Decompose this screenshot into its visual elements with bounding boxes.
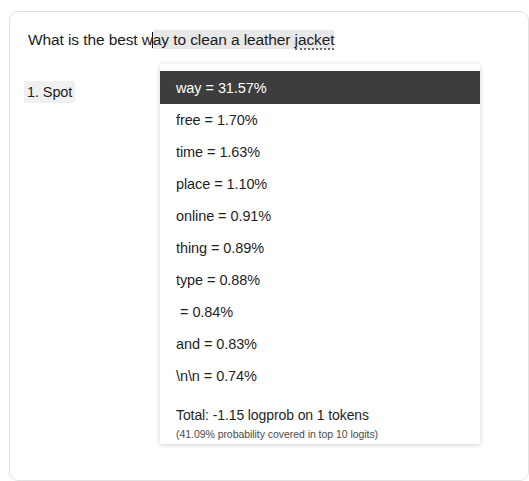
logit-row[interactable]: time=1.63% bbox=[160, 136, 480, 168]
logit-probability: 1.10% bbox=[227, 176, 268, 192]
logit-probability: 1.63% bbox=[219, 144, 260, 160]
logit-probability: 0.89% bbox=[223, 240, 264, 256]
logit-row[interactable]: type=0.88% bbox=[160, 264, 480, 296]
logit-probability: 0.83% bbox=[216, 336, 257, 352]
answer-line: 1. Spot bbox=[24, 81, 75, 103]
logit-separator: = bbox=[210, 176, 226, 192]
logit-row[interactable]: online=0.91% bbox=[160, 200, 480, 232]
logit-token: type bbox=[176, 272, 203, 288]
logit-token: online bbox=[176, 208, 214, 224]
logit-probability: 0.91% bbox=[230, 208, 271, 224]
logits-total-label: Total: -1.15 logprob on 1 tokens bbox=[176, 406, 480, 424]
logit-row[interactable]: way=31.57% bbox=[160, 71, 480, 104]
logits-popup-panel: way=31.57%free=1.70%time=1.63%place=1.10… bbox=[160, 64, 480, 444]
logit-separator: = bbox=[176, 304, 192, 320]
prompt-text-after-caret: ay to clean a leather bbox=[153, 31, 295, 48]
logit-token: time bbox=[176, 144, 203, 160]
logit-probability: 0.74% bbox=[216, 368, 257, 384]
logit-separator: = bbox=[200, 368, 216, 384]
logit-row[interactable]: =0.84% bbox=[160, 296, 480, 328]
prompt-selection-highlight: ay to clean a leather jacket bbox=[153, 30, 335, 49]
logit-separator: = bbox=[207, 240, 223, 256]
logit-probability: 1.70% bbox=[217, 112, 258, 128]
logit-separator: = bbox=[200, 336, 216, 352]
misspelled-word[interactable]: jacket bbox=[295, 31, 335, 50]
logit-separator: = bbox=[202, 80, 218, 96]
logit-token: \n\n bbox=[176, 368, 200, 384]
logits-footer: Total: -1.15 logprob on 1 tokens (41.09%… bbox=[160, 392, 480, 442]
logit-probability: 0.84% bbox=[192, 304, 233, 320]
logit-probability: 0.88% bbox=[219, 272, 260, 288]
logits-coverage-label: (41.09% probability covered in top 10 lo… bbox=[176, 426, 480, 442]
logit-token: free bbox=[176, 112, 201, 128]
logit-row-list: way=31.57%free=1.70%time=1.63%place=1.10… bbox=[160, 71, 480, 392]
logit-token: place bbox=[176, 176, 210, 192]
prompt-text-line[interactable]: What is the best way to clean a leather … bbox=[28, 29, 334, 51]
logit-row[interactable]: place=1.10% bbox=[160, 168, 480, 200]
logit-probability: 31.57% bbox=[218, 80, 267, 96]
logit-separator: = bbox=[201, 112, 217, 128]
logit-row[interactable]: and=0.83% bbox=[160, 328, 480, 360]
logit-row[interactable]: free=1.70% bbox=[160, 104, 480, 136]
prompt-text-before-caret: What is the best w bbox=[28, 31, 153, 48]
logit-separator: = bbox=[214, 208, 230, 224]
logit-token: way bbox=[176, 80, 202, 96]
logit-token: thing bbox=[176, 240, 207, 256]
logit-row[interactable]: thing=0.89% bbox=[160, 232, 480, 264]
logit-token: and bbox=[176, 336, 200, 352]
logit-separator: = bbox=[203, 272, 219, 288]
logit-separator: = bbox=[203, 144, 219, 160]
logit-row[interactable]: \n\n=0.74% bbox=[160, 360, 480, 392]
